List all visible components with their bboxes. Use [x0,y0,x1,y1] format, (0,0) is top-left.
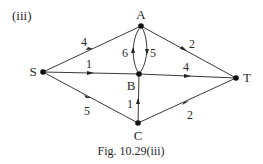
node-t [233,75,239,81]
network-diagram: (iii) [0,0,263,164]
weight-b-a: 6 [122,46,128,60]
weight-b-t: 4 [183,60,189,74]
weight-a-b: 5 [150,46,156,60]
weight-s-c: 5 [84,104,90,118]
node-a [138,23,144,29]
arrow-b-a-icon [131,47,135,53]
weight-c-b: 1 [127,97,133,111]
weight-s-b: 1 [86,57,92,71]
node-label-c: C [134,128,143,143]
arrow-a-t-icon [180,46,187,51]
weight-c-t: 2 [187,108,193,122]
panel-label: (iii) [12,8,32,23]
weight-a-t: 2 [189,37,195,51]
edge-s-c [43,72,138,123]
arrow-b-t-icon [184,74,191,78]
arrow-c-b-icon [136,98,140,104]
nodes [40,23,239,126]
node-s [40,69,46,75]
node-label-a: A [136,7,146,22]
arrow-s-b-icon [87,71,94,75]
arrow-a-b-icon [145,49,149,55]
node-label-b: B [127,78,136,93]
edge-b-a-arc [133,26,141,74]
node-b [136,71,142,77]
node-label-s: S [29,64,36,79]
figure-caption: Fig. 10.29(iii) [97,144,164,158]
weight-s-a: 4 [81,35,87,49]
node-c [135,120,141,126]
node-label-t: T [243,70,251,85]
